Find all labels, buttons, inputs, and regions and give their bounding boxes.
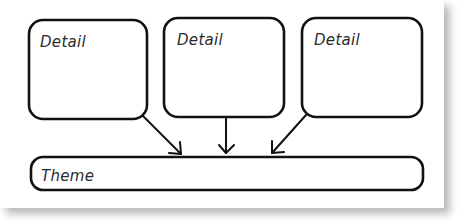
theme-label: Theme: [41, 167, 94, 185]
detail-theme-diagram: Detail Detail Detail Theme: [0, 0, 467, 224]
detail-label-2: Detail: [177, 31, 224, 49]
arrow-icon-2: [219, 118, 234, 153]
detail-label-3: Detail: [314, 31, 361, 49]
arrow-icon-1: [143, 116, 181, 154]
arrow-icon-3: [272, 115, 306, 153]
detail-label-1: Detail: [40, 33, 87, 51]
